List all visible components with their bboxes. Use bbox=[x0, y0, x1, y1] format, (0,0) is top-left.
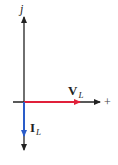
phasor-vl-subscript: L bbox=[78, 90, 83, 100]
imaginary-axis-label: j bbox=[20, 3, 23, 15]
phasor-il-symbol: I bbox=[30, 120, 35, 135]
real-axis-label: + bbox=[104, 96, 111, 108]
phasor-vl-label: VL bbox=[68, 84, 83, 97]
phasor-vl-symbol: V bbox=[68, 83, 77, 98]
phasor-il-subscript: L bbox=[36, 127, 41, 137]
phasor-il-label: IL bbox=[30, 121, 41, 134]
phasor-diagram bbox=[0, 0, 118, 165]
